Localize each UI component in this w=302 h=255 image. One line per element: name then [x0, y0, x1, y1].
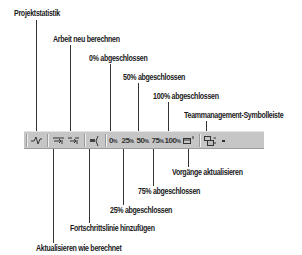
complete-75-button[interactable]: 75% — [150, 133, 165, 148]
complete-100-button[interactable]: 100% — [164, 133, 181, 148]
toolbar-options-chevron-icon — [221, 138, 226, 143]
label-vorgaenge-aktualisieren: Vorgänge aktualisieren — [172, 167, 243, 177]
add-progress-line-button[interactable] — [88, 133, 102, 148]
label-projektstatistik: Projektstatistik — [14, 8, 60, 18]
update-as-scheduled-button[interactable] — [52, 133, 66, 148]
pct-75-text: 75 — [151, 136, 159, 145]
leader-100-prozent — [168, 102, 169, 132]
leader-arbeit-neu-berechnen — [70, 45, 71, 132]
project-statistics-icon — [31, 136, 43, 145]
leader-fortschrittslinie — [89, 149, 90, 223]
leader-projektstatistik — [36, 20, 37, 132]
label-75-prozent: 75% abgeschlossen — [138, 186, 200, 196]
label-fortschrittslinie: Fortschrittslinie hinzufügen — [70, 223, 155, 233]
tracking-toolbar: 0% 25% 50% 75% 100% — [24, 131, 264, 149]
leader-aktualisieren-wie-berechnet — [53, 149, 54, 243]
pct-sign: % — [160, 138, 164, 144]
label-50-prozent: 50% abgeschlossen — [123, 72, 185, 82]
label-teammanagement: Teammanagement-Symbolleiste — [184, 110, 283, 120]
project-statistics-button[interactable] — [30, 133, 44, 148]
pct-50-text: 50 — [136, 136, 144, 145]
update-tasks-button[interactable] — [182, 133, 196, 148]
toolbar-options-button[interactable] — [219, 133, 227, 148]
reschedule-work-icon — [68, 136, 80, 145]
complete-25-button[interactable]: 25% — [120, 133, 135, 148]
leader-0-prozent — [110, 64, 111, 132]
leader-75-prozent — [153, 149, 154, 186]
workgroup-toolbar-button[interactable] — [202, 133, 218, 148]
update-as-scheduled-icon — [53, 136, 65, 145]
leader-50-prozent — [138, 83, 139, 132]
label-arbeit-neu-berechnen: Arbeit neu berechnen — [53, 34, 120, 44]
update-tasks-icon — [183, 136, 195, 145]
pct-sign: % — [130, 138, 134, 144]
toolbar-separator — [47, 134, 49, 147]
complete-50-button[interactable]: 50% — [135, 133, 150, 148]
pct-sign: % — [177, 138, 181, 144]
toolbar-separator — [199, 134, 201, 147]
pct-sign: % — [145, 138, 149, 144]
workgroup-toolbar-icon — [204, 136, 217, 146]
label-0-prozent: 0% abgeschlossen — [89, 53, 147, 63]
leader-vorgaenge-aktualisieren — [188, 149, 189, 167]
toolbar-grip[interactable] — [26, 134, 28, 147]
reschedule-work-button[interactable] — [67, 133, 81, 148]
label-100-prozent: 100% abgeschlossen — [153, 91, 219, 101]
add-progress-line-icon — [89, 136, 101, 146]
label-aktualisieren-wie-berechnet: Aktualisieren wie berechnet — [36, 243, 121, 253]
complete-0-button[interactable]: 0% — [107, 133, 119, 148]
label-25-prozent: 25% abgeschlossen — [110, 205, 172, 215]
pct-100-text: 100 — [164, 136, 176, 145]
toolbar-separator — [84, 134, 86, 147]
leader-25-prozent — [123, 149, 124, 205]
pct-25-text: 25 — [121, 136, 129, 145]
pct-sign: % — [113, 138, 117, 144]
